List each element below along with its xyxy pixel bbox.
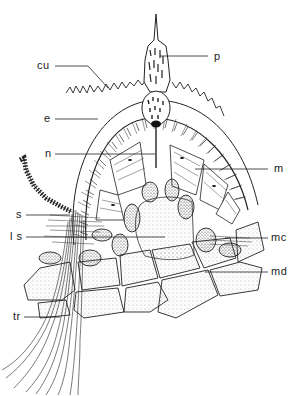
- label-md: md: [271, 266, 287, 277]
- label-e: e: [44, 113, 51, 124]
- label-cu: cu: [37, 60, 50, 71]
- label-n: n: [45, 148, 52, 159]
- side-spine: [20, 158, 72, 212]
- label-p: p: [214, 51, 221, 62]
- label-mc: mc: [271, 232, 287, 243]
- label-tr: tr: [13, 311, 21, 322]
- cuticle: [66, 80, 146, 93]
- label-s: s: [16, 209, 22, 220]
- papilla-spine: [144, 14, 170, 92]
- label-ls: l s: [10, 231, 23, 242]
- sensory-bulb: [142, 91, 170, 125]
- label-m: m: [274, 163, 284, 174]
